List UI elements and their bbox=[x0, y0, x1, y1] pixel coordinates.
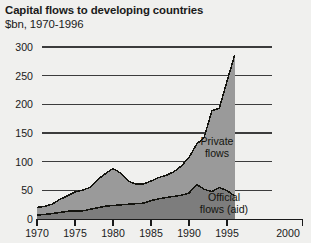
x-tick-label-1990: 1990 bbox=[177, 228, 201, 238]
x-tick-label-1980: 1980 bbox=[101, 228, 125, 238]
x-tick-label-1985: 1985 bbox=[139, 228, 163, 238]
private-flows-annotation-line2: flows bbox=[201, 147, 234, 159]
x-tick-label-1975: 1975 bbox=[63, 228, 87, 238]
private-flows-annotation-line1: Private bbox=[201, 135, 234, 147]
x-tick-label-1970: 1970 bbox=[25, 228, 49, 238]
official-flows-annotation-line1: Official bbox=[200, 191, 248, 203]
x-tick-label-2000: 2000 bbox=[276, 228, 300, 238]
x-axis-labels: 1970 1975 1980 1985 1990 1995 2000 bbox=[0, 0, 311, 243]
chart-figure: Capital flows to developing countries $b… bbox=[0, 0, 311, 243]
x-tick-label-1995: 1995 bbox=[215, 228, 239, 238]
private-flows-annotation: Private flows bbox=[201, 135, 234, 160]
official-flows-annotation-line2: flows (aid) bbox=[200, 203, 248, 215]
official-flows-annotation: Official flows (aid) bbox=[200, 191, 248, 216]
